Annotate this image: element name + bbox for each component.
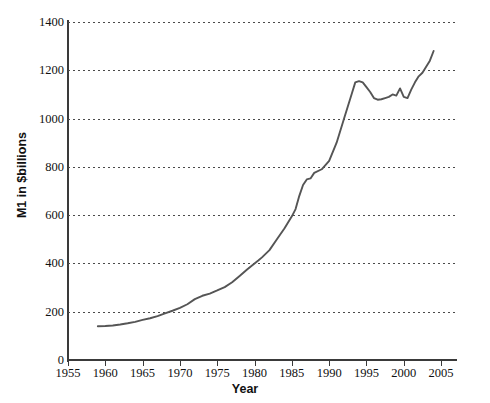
y-tick-label: 200 bbox=[24, 306, 64, 318]
y-tick-0: 0 bbox=[20, 354, 64, 366]
gridline-y-1000 bbox=[68, 119, 456, 120]
y-axis-title: M1 in $billions bbox=[15, 105, 29, 245]
y-tick-label: 400 bbox=[24, 257, 64, 269]
chart-container: 0200400600800100012001400 19551960196519… bbox=[0, 0, 490, 403]
y-tick-label: 800 bbox=[24, 161, 64, 173]
x-axis-line bbox=[67, 359, 457, 361]
gridline-y-800 bbox=[68, 167, 456, 168]
y-tick-400: 400 bbox=[20, 257, 64, 269]
data-series-layer bbox=[0, 0, 490, 403]
y-tick-label: 1400 bbox=[24, 16, 64, 28]
y-tick-label: 1000 bbox=[24, 113, 64, 125]
x-tick-label-2005: 2005 bbox=[418, 367, 464, 380]
gridline-y-1200 bbox=[68, 70, 456, 71]
y-tick-1400: 1400 bbox=[20, 16, 64, 28]
m1-series-line bbox=[98, 51, 434, 326]
x-axis-title: Year bbox=[0, 382, 490, 396]
gridline-y-1400 bbox=[68, 22, 456, 23]
y-tick-200: 200 bbox=[20, 306, 64, 318]
gridline-y-600 bbox=[68, 215, 456, 216]
y-tick-label: 600 bbox=[24, 209, 64, 221]
y-tick-label: 0 bbox=[24, 354, 64, 366]
y-tick-1200: 1200 bbox=[20, 64, 64, 76]
y-tick-label: 1200 bbox=[24, 64, 64, 76]
gridline-y-400 bbox=[68, 263, 456, 264]
y-axis-line bbox=[67, 20, 69, 362]
gridline-y-200 bbox=[68, 312, 456, 313]
